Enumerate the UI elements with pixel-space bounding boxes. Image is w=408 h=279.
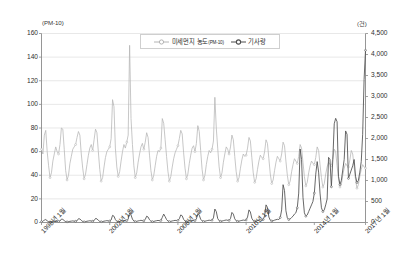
series-marker xyxy=(288,184,290,186)
series-marker xyxy=(313,164,315,166)
series-marker xyxy=(288,219,290,221)
series-marker xyxy=(254,181,256,183)
series-marker xyxy=(220,177,222,179)
series-marker xyxy=(305,215,307,217)
series-marker xyxy=(237,180,239,182)
series-marker xyxy=(279,160,281,162)
legend-entry-pm10: 미세먼지 농도(PM-10) xyxy=(154,37,224,46)
right-axis-tick-label: 2,500 xyxy=(371,113,388,120)
series-marker xyxy=(177,219,179,221)
series-marker xyxy=(296,162,298,164)
right-axis-tick-label: 1,000 xyxy=(371,176,388,183)
legend-label-pm10-sub: (PM-10) xyxy=(208,40,224,45)
series-marker xyxy=(296,207,298,209)
series-marker xyxy=(92,220,94,222)
left-axis-tick-label: 60 xyxy=(31,147,38,154)
series-marker xyxy=(339,186,341,188)
series-marker xyxy=(228,153,230,155)
series-marker xyxy=(41,148,43,150)
series-marker xyxy=(117,175,119,177)
series-marker xyxy=(177,145,179,147)
series-marker xyxy=(83,221,85,223)
legend-marker-article-icon xyxy=(231,38,246,46)
right-axis-tick-label: 4,500 xyxy=(371,29,388,36)
series-marker xyxy=(160,220,162,222)
left-axis-tick-label: 40 xyxy=(31,171,38,178)
series-marker xyxy=(168,180,170,182)
series-line-article xyxy=(42,50,366,222)
series-marker xyxy=(134,177,136,179)
series-marker xyxy=(160,147,162,149)
series-marker xyxy=(75,144,77,146)
series-marker xyxy=(322,211,324,213)
series-marker xyxy=(271,183,273,185)
series-marker xyxy=(92,149,94,151)
series-marker xyxy=(245,219,247,221)
right-axis-tick-label: 4,000 xyxy=(371,50,388,57)
left-axis-tick-label: 140 xyxy=(27,53,38,60)
series-marker xyxy=(151,179,153,181)
series-marker xyxy=(109,146,111,148)
right-axis-tick-label: 2,000 xyxy=(371,134,388,141)
left-axis-tick-label: 120 xyxy=(27,77,38,84)
left-axis-tick-label: 20 xyxy=(31,195,38,202)
series-marker xyxy=(100,221,102,223)
left-axis-unit-label: (PM-10) xyxy=(42,19,64,26)
right-axis-tick-label: 3,500 xyxy=(371,71,388,78)
series-marker xyxy=(211,219,213,221)
series-marker xyxy=(245,154,247,156)
series-marker xyxy=(151,221,153,223)
right-axis-tick-label: 3,000 xyxy=(371,92,388,99)
left-axis-tick-label: 100 xyxy=(27,100,38,107)
series-marker xyxy=(168,221,170,223)
series-marker xyxy=(75,220,77,222)
right-axis-unit-label: (건) xyxy=(357,19,367,28)
series-marker xyxy=(271,220,273,222)
left-axis-tick-label: 80 xyxy=(31,124,38,131)
series-marker xyxy=(348,177,350,179)
left-axis-tick-label: 160 xyxy=(27,29,38,36)
series-marker xyxy=(356,182,358,184)
series-marker xyxy=(220,220,222,222)
dust-concentration-article-volume-chart: (PM-10) (건) 미세먼지 농도(PM-10) 기사량 160140120… xyxy=(0,0,408,279)
series-marker xyxy=(279,217,281,219)
legend-label-pm10: 미세먼지 농도(PM-10) xyxy=(172,37,224,46)
series-marker xyxy=(211,148,213,150)
right-axis-tick-label: 500 xyxy=(371,197,382,204)
series-marker xyxy=(66,179,68,181)
series-marker xyxy=(58,153,60,155)
series-marker xyxy=(305,185,307,187)
series-marker xyxy=(365,49,367,51)
series-marker xyxy=(126,141,128,143)
series-marker xyxy=(194,151,196,153)
legend-entry-article: 기사량 xyxy=(231,37,266,46)
series-marker xyxy=(339,184,341,186)
series-marker xyxy=(365,167,367,169)
series-marker xyxy=(143,148,145,150)
legend-label-pm10-main: 미세먼지 농도 xyxy=(172,38,209,45)
series-marker xyxy=(228,219,230,221)
series-marker xyxy=(313,192,315,194)
series-marker xyxy=(203,221,205,223)
legend-label-article: 기사량 xyxy=(248,37,266,46)
left-axis-tick-label: 0 xyxy=(34,218,38,225)
series-marker xyxy=(356,187,358,189)
series-marker xyxy=(66,221,68,223)
series-marker xyxy=(100,180,102,182)
series-marker xyxy=(322,186,324,188)
series-marker xyxy=(134,221,136,223)
chart-legend: 미세먼지 농도(PM-10) 기사량 xyxy=(140,34,280,49)
series-marker xyxy=(330,186,332,188)
series-marker xyxy=(143,220,145,222)
series-marker xyxy=(262,158,264,160)
series-marker xyxy=(203,179,205,181)
legend-marker-pm10-icon xyxy=(154,38,169,46)
series-marker xyxy=(49,177,51,179)
series-marker xyxy=(186,178,188,180)
series-marker xyxy=(83,178,85,180)
series-marker xyxy=(237,220,239,222)
right-axis-tick-label: 1,500 xyxy=(371,155,388,162)
